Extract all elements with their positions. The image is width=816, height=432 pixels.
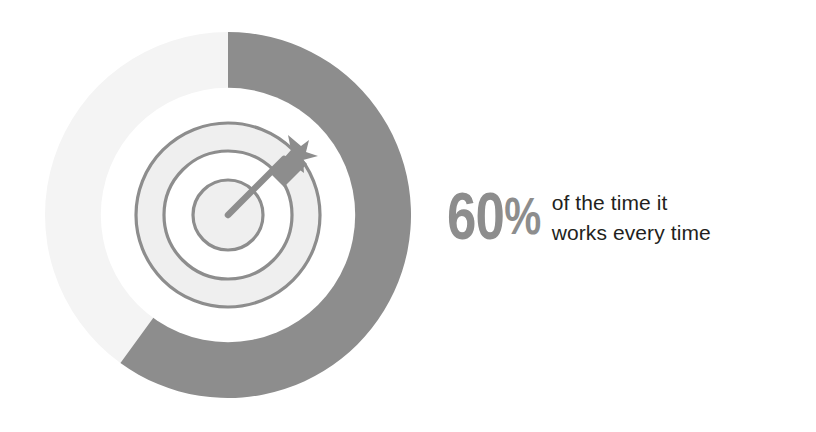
percentage-sign: % [504, 187, 540, 245]
donut-chart [45, 32, 411, 398]
donut-chart-svg [45, 32, 411, 398]
caption-line-1: of the time it [552, 188, 711, 218]
stat-block: 60% of the time it works every time [447, 183, 711, 249]
target-with-dart-icon [136, 123, 320, 307]
infographic-root: 60% of the time it works every time [0, 0, 816, 432]
caption-block: of the time it works every time [552, 183, 711, 248]
percentage-number: 60 [447, 179, 504, 253]
caption-line-2: works every time [552, 218, 711, 248]
percentage-value: 60% [447, 183, 540, 249]
